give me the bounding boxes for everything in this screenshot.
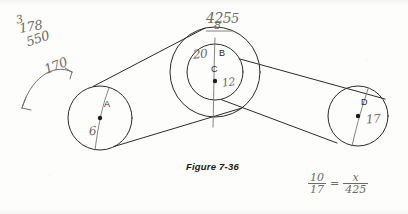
pulley-c-center-dot xyxy=(213,79,217,83)
pulley-d-center-dot xyxy=(356,114,360,118)
equation-right-numerator: x xyxy=(351,172,361,183)
pulley-d-label: D xyxy=(361,97,368,107)
pulley-c-label: C xyxy=(211,64,218,74)
annotation-radius-d: 17 xyxy=(366,112,381,127)
equation-equals-sign: = xyxy=(326,177,343,190)
equation-left-numerator: 10 xyxy=(308,172,326,183)
belt-ab-lower xyxy=(114,108,242,147)
pulley-a-label: A xyxy=(104,99,110,109)
handwritten-equation: 10 17 = x 425 xyxy=(308,172,368,195)
scanned-figure-page: A B C D 3 178 550 170 425 8 5 20 12 6 17… xyxy=(0,0,408,214)
figure-caption: Figure 7-36 xyxy=(186,161,239,172)
annotation-top-center-5: 5 xyxy=(231,11,239,26)
belt-cd-upper xyxy=(240,59,385,99)
belt-cd-lower xyxy=(221,100,337,144)
annotation-radius-a: 6 xyxy=(88,124,96,139)
annotation-radius-b: 20 xyxy=(192,46,208,61)
annotation-top-center-8: 8 xyxy=(214,19,221,32)
equation-right-denominator: 425 xyxy=(343,183,368,195)
equation-left-fraction: 10 17 xyxy=(308,172,326,195)
pulley-b-label: B xyxy=(219,48,225,58)
pulley-a-center-dot xyxy=(98,116,102,120)
pencil-arrow-head xyxy=(22,97,31,110)
equation-right-fraction: x 425 xyxy=(343,172,368,195)
pulley-a-radius-stroke xyxy=(95,88,109,150)
belt-ab-upper xyxy=(93,28,205,87)
equation-left-denominator: 17 xyxy=(308,183,326,195)
annotation-radius-c: 12 xyxy=(221,75,236,90)
